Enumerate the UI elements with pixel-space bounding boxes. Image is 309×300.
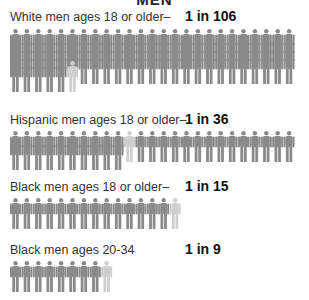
- person-icon: [124, 131, 135, 162]
- person-icon: [56, 261, 67, 292]
- person-icon: [158, 198, 169, 229]
- person-icon: [170, 131, 181, 162]
- person-icon: [56, 198, 67, 229]
- people-icons-white: [0, 29, 309, 95]
- person-icon: [272, 131, 283, 162]
- group-label-white: White men ages 18 or older–: [10, 10, 171, 24]
- person-icon: [181, 131, 192, 162]
- person-icon: [113, 198, 124, 229]
- person-icon: [215, 131, 226, 162]
- person-icon: [21, 198, 32, 229]
- person-icon: [135, 131, 146, 162]
- person-icon: [90, 198, 101, 229]
- person-icon: [10, 261, 21, 292]
- group-ratio-hispanic: 1 in 36: [185, 111, 229, 127]
- person-icon: [10, 198, 21, 229]
- people-icons-black-18: [0, 198, 309, 232]
- person-icon: [44, 261, 55, 292]
- person-icon: [67, 261, 78, 292]
- person-icon: [238, 131, 249, 162]
- person-icon: [101, 198, 112, 229]
- pictogram-white: [0, 29, 309, 95]
- person-icon: [204, 131, 215, 162]
- person-icon: [284, 131, 295, 162]
- person-icon: [78, 198, 89, 229]
- pictogram-hispanic: [0, 131, 309, 173]
- group-ratio-black-18: 1 in 15: [185, 178, 229, 194]
- person-icon: [90, 261, 101, 292]
- pictogram-black-18: [0, 198, 309, 232]
- people-icons-black-20-34: [0, 261, 309, 295]
- person-icon: [33, 198, 44, 229]
- chart-title: MEN: [0, 0, 309, 8]
- person-icon: [44, 198, 55, 229]
- person-icon: [78, 261, 89, 292]
- person-icon: [192, 131, 203, 162]
- person-icon: [124, 198, 135, 229]
- person-icon: [227, 131, 238, 162]
- group-ratio-black-20-34: 1 in 9: [185, 241, 221, 257]
- person-icon: [147, 131, 158, 162]
- person-icon: [147, 198, 158, 229]
- person-icon: [67, 198, 78, 229]
- person-icon: [261, 131, 272, 162]
- group-label-hispanic: Hispanic men ages 18 or older–: [10, 113, 187, 127]
- person-icon: [158, 131, 169, 162]
- group-ratio-white: 1 in 106: [185, 8, 236, 24]
- person-icon: [21, 261, 32, 292]
- group-label-black-20-34: Black men ages 20-34: [10, 243, 134, 257]
- group-label-black-18: Black men ages 18 or older–: [10, 180, 169, 194]
- person-icon: [101, 261, 112, 292]
- person-icon: [33, 261, 44, 292]
- person-icon: [135, 198, 146, 229]
- pictogram-black-20-34: [0, 261, 309, 295]
- person-icon: [170, 198, 181, 229]
- people-icons-hispanic: [0, 131, 309, 173]
- person-icon: [249, 131, 260, 162]
